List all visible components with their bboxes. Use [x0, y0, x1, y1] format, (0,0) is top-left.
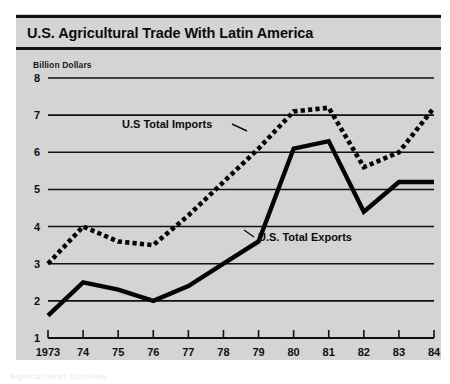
- series-annotations-group: U.S Total ImportsU.S. Total Exports: [122, 118, 352, 243]
- y-tick-label-4: 4: [34, 221, 41, 233]
- x-tick-label-84: 84: [428, 346, 441, 358]
- series-line-u-s-total-exports: [48, 141, 434, 316]
- series-line-u-s-total-imports: [48, 108, 434, 264]
- x-tick-label-81: 81: [323, 346, 335, 358]
- data-series-group: [48, 108, 434, 316]
- plot-area: 12345678 19737475767778798081828384 U.S …: [0, 0, 450, 384]
- y-tick-label-8: 8: [34, 72, 40, 84]
- y-tick-label-1: 1: [34, 332, 40, 344]
- series-label-u-s-total-exports: U.S. Total Exports: [258, 231, 352, 243]
- x-tick-label-74: 74: [77, 346, 90, 358]
- x-tick-label-79: 79: [252, 346, 264, 358]
- x-tick-label-78: 78: [217, 346, 229, 358]
- y-tick-label-7: 7: [34, 109, 40, 121]
- x-tick-label-75: 75: [112, 346, 124, 358]
- chart-figure: U.S. Agricultural Trade With Latin Ameri…: [0, 0, 450, 384]
- x-tick-label-83: 83: [393, 346, 405, 358]
- page-edge-artifact: Agricultural Outlook: [10, 372, 107, 381]
- y-tick-label-2: 2: [34, 295, 40, 307]
- x-tick-labels-group: 19737475767778798081828384: [36, 346, 441, 358]
- series-label-u-s-total-imports: U.S Total Imports: [122, 118, 212, 130]
- series-leader-u-s-total-imports: [232, 124, 247, 131]
- x-tick-label-82: 82: [358, 346, 370, 358]
- x-tick-label-1973: 1973: [36, 346, 60, 358]
- y-tick-label-3: 3: [34, 258, 40, 270]
- gridlines-group: [48, 78, 434, 301]
- y-tick-labels-group: 12345678: [34, 72, 41, 344]
- x-axis-group: [48, 330, 434, 338]
- x-tick-label-80: 80: [288, 346, 300, 358]
- series-leader-u-s-total-exports: [244, 230, 254, 237]
- y-tick-label-6: 6: [34, 146, 40, 158]
- y-tick-label-5: 5: [34, 183, 40, 195]
- x-tick-label-76: 76: [147, 346, 159, 358]
- x-tick-label-77: 77: [182, 346, 194, 358]
